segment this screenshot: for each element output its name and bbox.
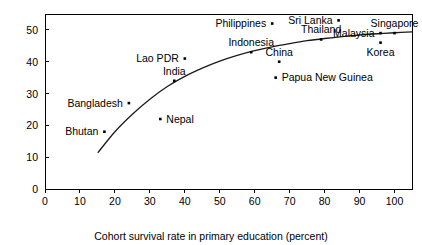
y-tick-label: 40 [26, 56, 38, 68]
x-axis-tick-labels: 0102030405060708090100 [42, 195, 403, 207]
data-marker-india [173, 80, 176, 83]
trend-curve-group [98, 32, 412, 153]
x-tick-label: 60 [249, 195, 261, 207]
data-marker-indonesia [250, 51, 253, 54]
point-label-papua-new-guinea: Papua New Guinea [282, 71, 373, 83]
point-label-nepal: Nepal [166, 113, 193, 125]
y-axis-ticks [45, 30, 49, 189]
point-label-singapore: Singapore [371, 17, 419, 29]
x-tick-label: 10 [74, 195, 86, 207]
y-tick-label: 0 [32, 183, 38, 195]
x-tick-label: 0 [42, 195, 48, 207]
trend-curve [98, 32, 412, 153]
y-axis-tick-labels: 01020304050 [26, 24, 38, 195]
y-tick-label: 30 [26, 88, 38, 100]
data-marker-thailand [320, 38, 323, 41]
point-label-bangladesh: Bangladesh [67, 97, 123, 109]
x-tick-label: 20 [109, 195, 121, 207]
point-label-korea: Korea [367, 46, 395, 58]
x-axis-title: Cohort survival rate in primary educatio… [94, 230, 327, 242]
data-marker-korea [379, 41, 382, 44]
chart-canvas: 0102030405060708090100 01020304050 Bhuta… [0, 0, 422, 245]
x-tick-label: 80 [319, 195, 331, 207]
x-tick-label: 30 [144, 195, 156, 207]
data-marker-bangladesh [128, 102, 131, 105]
data-marker-singapore [393, 32, 396, 35]
x-tick-label: 40 [179, 195, 191, 207]
data-marker-sri-lanka [337, 19, 340, 22]
point-label-bhutan: Bhutan [65, 125, 98, 137]
y-tick-label: 10 [26, 151, 38, 163]
scatter-chart: 0102030405060708090100 01020304050 Bhuta… [0, 0, 422, 245]
x-tick-label: 70 [284, 195, 296, 207]
point-label-lao-pdr: Lao PDR [136, 52, 179, 64]
y-tick-label: 20 [26, 119, 38, 131]
data-point-labels: BhutanBangladeshNepalIndiaLao PDRIndones… [65, 14, 418, 137]
y-tick-label: 50 [26, 24, 38, 36]
data-marker-lao-pdr [184, 57, 187, 60]
data-marker-papua-new-guinea [274, 76, 277, 79]
point-label-malaysia: Malaysia [333, 27, 375, 39]
x-tick-label: 50 [214, 195, 226, 207]
data-marker-malaysia [379, 32, 382, 35]
point-label-philippines: Philippines [215, 17, 266, 29]
data-marker-philippines [271, 22, 274, 25]
data-marker-china [278, 60, 281, 63]
point-label-sri-lanka: Sri Lanka [288, 14, 333, 26]
x-tick-label: 90 [354, 195, 366, 207]
x-axis-ticks [45, 189, 395, 193]
point-label-china: China [265, 46, 293, 58]
point-label-india: India [163, 65, 186, 77]
data-marker-nepal [159, 118, 162, 121]
x-tick-label: 100 [386, 195, 404, 207]
data-marker-bhutan [103, 130, 106, 133]
